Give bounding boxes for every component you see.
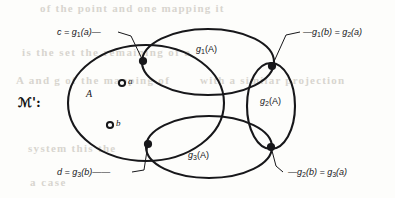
callout-g1b-equals-g2a: —g1(b) = g2(a) bbox=[303, 27, 362, 38]
callout-3-mid: (b) = g bbox=[306, 167, 332, 177]
g2-image-label: g2(A) bbox=[260, 96, 281, 107]
leader-g1b-g2a bbox=[272, 32, 300, 66]
callout-0-dash: — bbox=[92, 27, 101, 37]
figure-page: of the point and one mapping it is the s… bbox=[0, 0, 395, 198]
callout-g2b-equals-g3a: —g2(b) = g3(a) bbox=[288, 167, 347, 178]
callout-0-pre: c = g bbox=[57, 27, 77, 37]
callout-2-post: (b) bbox=[81, 167, 92, 177]
point-a-label: a bbox=[128, 76, 133, 86]
point-b-marker bbox=[107, 122, 113, 128]
point-b-label: b bbox=[116, 118, 121, 128]
callout-c-equals-g1-a: c = g1(a)— bbox=[57, 27, 101, 38]
set-a-label: A bbox=[86, 88, 92, 99]
callout-2-pre: d = g bbox=[57, 167, 77, 177]
callout-1-dash: — bbox=[303, 27, 312, 37]
leader-g2b-g3a bbox=[271, 147, 283, 172]
callout-d-equals-g3-b: d = g3(b)—— bbox=[57, 167, 110, 178]
g3-image-label-arg: (A) bbox=[197, 150, 209, 160]
g2-image-label-arg: (A) bbox=[269, 96, 281, 106]
g1-image-label: g1(A) bbox=[196, 44, 217, 55]
callout-2-dash: —— bbox=[92, 167, 110, 177]
g3-image-ellipse bbox=[146, 116, 272, 178]
structure-label: ℳ': bbox=[18, 95, 41, 110]
g3-image-label: g3(A) bbox=[188, 150, 209, 161]
callout-3-post: (a) bbox=[336, 167, 347, 177]
callout-1-post: (a) bbox=[351, 27, 362, 37]
g1-image-label-arg: (A) bbox=[205, 44, 217, 54]
point-a-marker bbox=[119, 80, 125, 86]
callout-1-mid: (b) = g bbox=[321, 27, 347, 37]
callout-3-dash: — bbox=[288, 167, 297, 177]
callout-0-post: (a) bbox=[81, 27, 92, 37]
g1-image-ellipse bbox=[142, 29, 274, 95]
